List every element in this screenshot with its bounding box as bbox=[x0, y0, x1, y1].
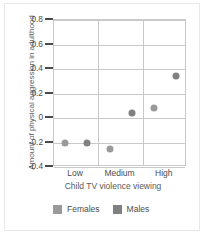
horizontal-gridline bbox=[54, 20, 185, 21]
legend-label: Females bbox=[67, 204, 100, 214]
y-tick-label: 0.2 bbox=[31, 88, 43, 98]
y-tick-label: 0 bbox=[38, 112, 43, 122]
data-point bbox=[106, 145, 113, 152]
legend-label: Males bbox=[127, 204, 150, 214]
x-tick-label: High bbox=[155, 168, 172, 178]
x-axis-title: Child TV violence viewing bbox=[33, 181, 193, 191]
x-tick-label: Low bbox=[67, 168, 83, 178]
y-tick-label: 0.4 bbox=[31, 63, 43, 73]
y-tick-mark bbox=[45, 92, 53, 94]
horizontal-gridline bbox=[54, 45, 185, 46]
horizontal-gridline bbox=[54, 94, 185, 95]
y-tick-mark bbox=[45, 67, 53, 69]
legend-entry: Females bbox=[53, 204, 100, 214]
vertical-gridline bbox=[143, 20, 144, 165]
data-point bbox=[150, 105, 157, 112]
y-tick-mark bbox=[45, 18, 53, 20]
x-axis-ticks: LowMediumHigh bbox=[53, 168, 186, 182]
plot-area bbox=[53, 19, 186, 166]
y-tick-mark bbox=[45, 141, 53, 143]
chart-figure: Amount of physical aggression in adultho… bbox=[0, 0, 205, 238]
horizontal-gridline bbox=[54, 143, 185, 144]
data-point bbox=[172, 73, 179, 80]
horizontal-gridline bbox=[54, 69, 185, 70]
legend-swatch-icon bbox=[53, 205, 62, 214]
data-point bbox=[128, 110, 135, 117]
legend-entry: Males bbox=[113, 204, 150, 214]
y-tick-label: -0.4 bbox=[29, 161, 43, 171]
y-tick-mark bbox=[45, 165, 53, 167]
y-tick-mark bbox=[45, 43, 53, 45]
x-tick-label: Medium bbox=[104, 168, 134, 178]
chart-legend: FemalesMales bbox=[53, 201, 193, 217]
legend-swatch-icon bbox=[113, 205, 122, 214]
vertical-gridline bbox=[98, 20, 99, 165]
y-axis-ticks: 0.80.60.40.20-0.2-0.4 bbox=[0, 19, 53, 166]
y-tick-label: -0.2 bbox=[29, 137, 43, 147]
data-point bbox=[84, 139, 91, 146]
y-tick-label: 0.8 bbox=[31, 14, 43, 24]
horizontal-gridline bbox=[54, 118, 185, 119]
data-point bbox=[62, 139, 69, 146]
y-tick-label: 0.6 bbox=[31, 39, 43, 49]
y-tick-mark bbox=[45, 116, 53, 118]
